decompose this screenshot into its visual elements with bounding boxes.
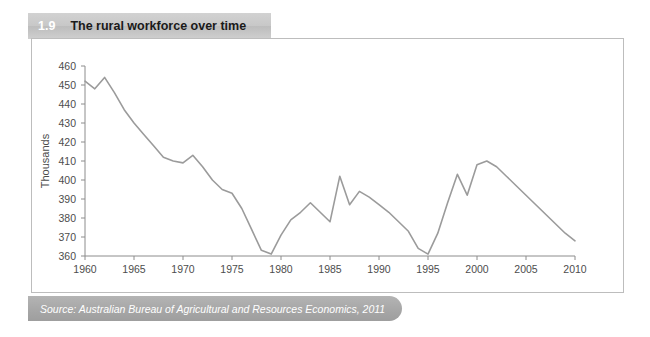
y-tick-label: 370 [58, 231, 76, 243]
x-tick-label: 1960 [73, 263, 97, 275]
y-tick-label: 430 [58, 117, 76, 129]
figure-container: 1.9 The rural workforce over time 360370… [0, 0, 650, 337]
y-tick-label: 400 [58, 174, 76, 186]
line-chart: 360370380390400410420430440450460 196019… [0, 0, 650, 337]
x-tick-label: 2000 [465, 263, 489, 275]
y-axis-title: Thousands [39, 133, 51, 188]
y-tick-label: 450 [58, 79, 76, 91]
x-tick-label: 2010 [563, 263, 587, 275]
y-tick-label: 460 [58, 60, 76, 72]
x-tick-label: 1985 [318, 263, 342, 275]
y-tick-label: 390 [58, 193, 76, 205]
chart-axes [85, 66, 575, 256]
x-tick-label: 1965 [122, 263, 146, 275]
source-text: Source: Australian Bureau of Agricultura… [40, 303, 385, 315]
x-tick-label: 1975 [220, 263, 244, 275]
x-tick-label: 1980 [269, 263, 293, 275]
y-tick-label: 410 [58, 155, 76, 167]
x-tick-label: 2005 [514, 263, 538, 275]
x-tick-label: 1970 [171, 263, 195, 275]
x-axis-ticks: 1960196519701975198019851990199520002005… [73, 256, 587, 275]
x-tick-label: 1990 [367, 263, 391, 275]
y-tick-label: 440 [58, 98, 76, 110]
source-banner: Source: Australian Bureau of Agricultura… [28, 296, 402, 321]
y-tick-label: 380 [58, 212, 76, 224]
x-tick-label: 1995 [416, 263, 440, 275]
y-tick-label: 420 [58, 136, 76, 148]
data-series-line [85, 77, 575, 254]
y-axis-ticks: 360370380390400410420430440450460 [58, 60, 85, 262]
y-tick-label: 360 [58, 250, 76, 262]
